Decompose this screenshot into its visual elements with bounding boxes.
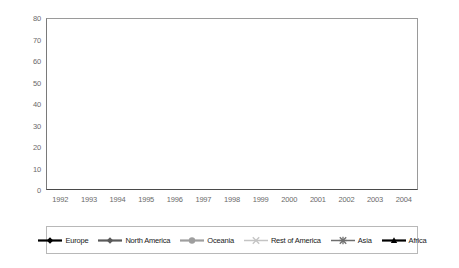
legend-marker-icon xyxy=(37,235,63,246)
legend-item-north-america[interactable]: North America xyxy=(97,235,170,246)
line-chart-figure: 01020304050607080 1992199319941995199619… xyxy=(0,0,459,268)
legend-marker-icon xyxy=(243,235,269,246)
legend-item-europe[interactable]: Europe xyxy=(37,235,88,246)
legend-item-label: Oceania xyxy=(207,236,234,245)
legend-marker-icon xyxy=(179,235,205,246)
chart-legend: EuropeNorth AmericaOceaniaRest of Americ… xyxy=(46,226,418,254)
chart-screenshot: 01020304050607080 1992199319941995199619… xyxy=(0,0,459,268)
data-point-marker xyxy=(47,237,53,243)
legend-item-label: Rest of America xyxy=(271,236,321,245)
legend-item-label: Africa xyxy=(409,236,427,245)
data-point-marker xyxy=(189,237,195,243)
legend-item-label: North America xyxy=(125,236,170,245)
legend-item-rest-of-america[interactable]: Rest of America xyxy=(243,235,321,246)
plot-frame xyxy=(46,18,418,190)
legend-item-label: Asia xyxy=(358,236,372,245)
legend-item-oceania[interactable]: Oceania xyxy=(179,235,234,246)
x-axis-tick-label: 2004 xyxy=(384,195,424,204)
data-point-marker xyxy=(339,236,347,244)
plot-area xyxy=(46,18,418,190)
legend-item-asia[interactable]: Asia xyxy=(330,235,372,246)
data-point-marker xyxy=(107,237,113,243)
legend-item-africa[interactable]: Africa xyxy=(381,235,427,246)
legend-marker-icon xyxy=(330,235,356,246)
legend-marker-icon xyxy=(381,235,407,246)
legend-item-label: Europe xyxy=(65,236,88,245)
legend-marker-icon xyxy=(97,235,123,246)
